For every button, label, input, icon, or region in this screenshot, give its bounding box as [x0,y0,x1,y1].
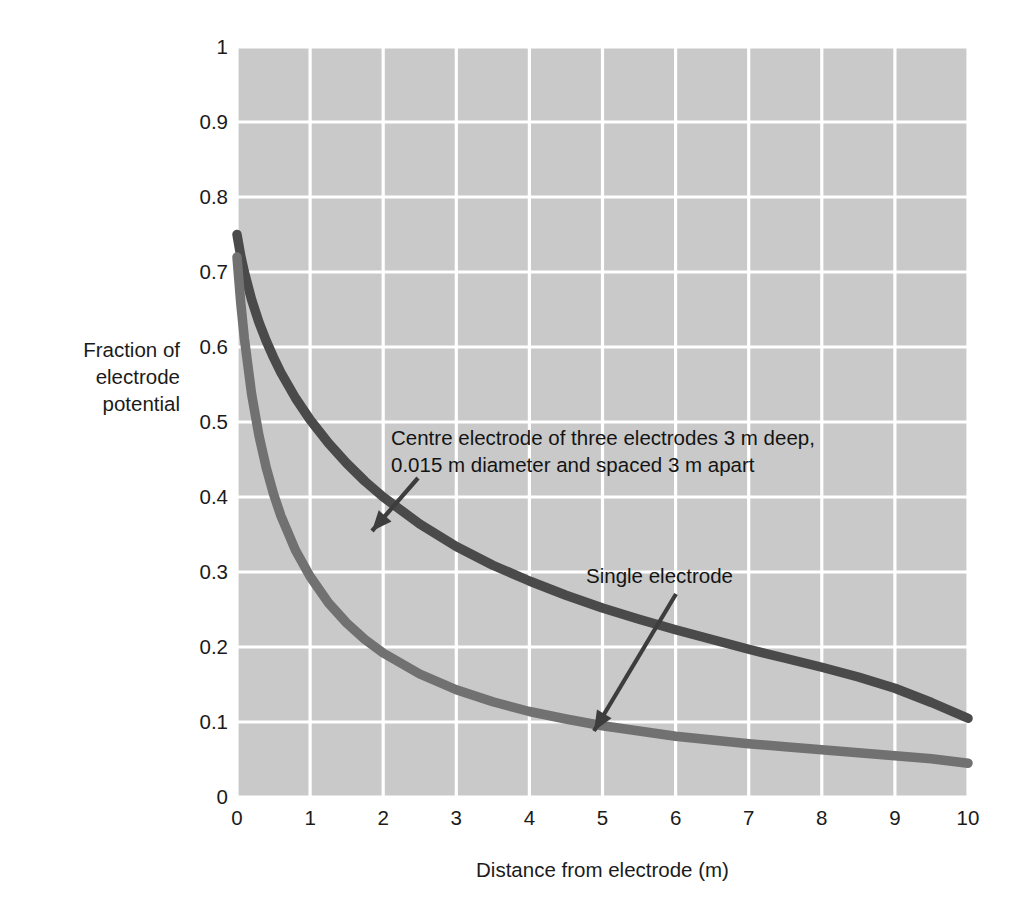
x-tick-label-0: 0 [207,806,267,830]
x-tick-label-8: 8 [792,806,852,830]
x-tick-label-7: 7 [719,806,779,830]
x-tick-label-2: 2 [353,806,413,830]
centre-electrode-annotation-text: Centre electrode of three electrodes 3 m… [391,424,815,478]
chart-figure: Fraction of electrode potential Distance… [0,0,1014,918]
single-electrode-annotation-text: Single electrode [586,562,733,589]
x-tick-label-4: 4 [499,806,559,830]
x-tick-label-10: 10 [938,806,998,830]
x-tick-label-9: 9 [865,806,925,830]
x-tick-label-5: 5 [573,806,633,830]
x-tick-label-1: 1 [280,806,340,830]
x-tick-label-3: 3 [426,806,486,830]
x-tick-label-6: 6 [646,806,706,830]
